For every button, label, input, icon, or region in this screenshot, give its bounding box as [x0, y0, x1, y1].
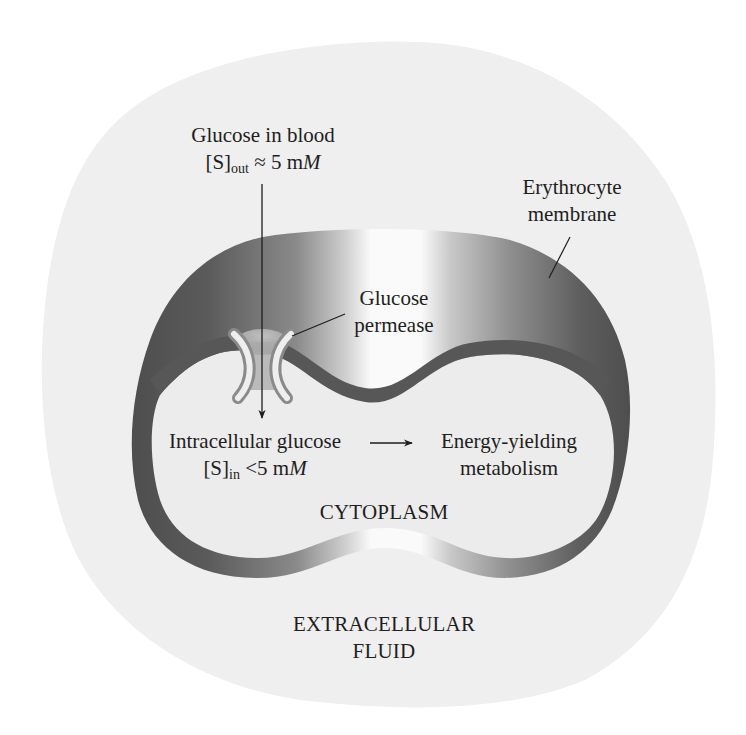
concentration-unit: M — [289, 456, 307, 480]
metabolism-label-line1: Energy-yielding — [441, 428, 577, 455]
metabolism-label-line2: metabolism — [441, 455, 577, 482]
concentration-value: ≈ 5 m — [249, 150, 303, 174]
erythrocyte-membrane-label: Erythrocyte membrane — [522, 174, 621, 228]
intracellular-glucose-label: Intracellular glucose [S]in <5 mM — [169, 428, 341, 482]
intracellular-label-line1: Intracellular glucose — [169, 428, 341, 455]
extracellular-fluid-label: EXTRACELLULAR FLUID — [293, 611, 475, 665]
concentration-subscript: out — [231, 161, 249, 176]
glucose-blood-title: Glucose in blood — [191, 122, 334, 149]
cytoplasm-label: CYTOPLASM — [320, 499, 449, 526]
membrane-label-line2: membrane — [522, 201, 621, 228]
concentration-subscript: in — [229, 467, 240, 482]
concentration-value: <5 m — [240, 456, 289, 480]
glucose-blood-concentration: [S]out ≈ 5 mM — [191, 149, 334, 176]
glucose-permease-label: Glucose permease — [354, 285, 433, 339]
permease-label-line2: permease — [354, 312, 433, 339]
diagram-canvas: Glucose in blood [S]out ≈ 5 mM Erythrocy… — [0, 0, 746, 735]
extracellular-label-line2: FLUID — [293, 638, 475, 665]
glucose-blood-label: Glucose in blood [S]out ≈ 5 mM — [191, 122, 334, 176]
intracellular-concentration: [S]in <5 mM — [169, 455, 341, 482]
membrane-label-line1: Erythrocyte — [522, 174, 621, 201]
energy-metabolism-label: Energy-yielding metabolism — [441, 428, 577, 482]
concentration-symbol: [S] — [205, 150, 231, 174]
concentration-symbol: [S] — [203, 456, 229, 480]
permease-label-line1: Glucose — [354, 285, 433, 312]
concentration-unit: M — [303, 150, 321, 174]
extracellular-label-line1: EXTRACELLULAR — [293, 611, 475, 638]
